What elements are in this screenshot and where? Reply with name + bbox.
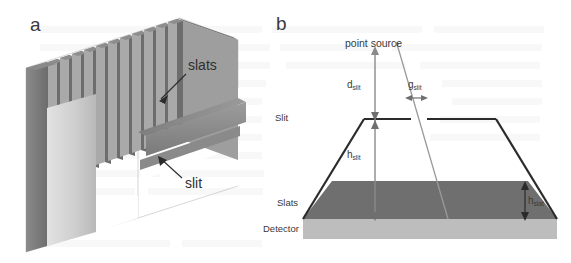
- label-slats: slats: [188, 58, 217, 72]
- left-plate-edge: [26, 62, 47, 252]
- slit-aperture-wedge: [96, 196, 138, 232]
- gslit-arrow-right: [421, 95, 428, 101]
- hslit-arrow-up: [371, 120, 379, 129]
- detector-band: [303, 219, 557, 239]
- label-point-source: point source: [345, 38, 402, 49]
- label-row-slats: Slats: [277, 198, 298, 208]
- h-slit-subscript: slit: [353, 154, 361, 161]
- dimension-d-slit: dslit: [347, 80, 361, 90]
- d-slit-symbol: d: [347, 79, 353, 90]
- panel-a-drawing: [0, 0, 285, 263]
- d-slit-subscript: slit: [353, 84, 361, 91]
- dimension-g-slit: gslit: [408, 80, 422, 90]
- h-slit-symbol: h: [347, 149, 353, 160]
- label-row-slit: Slit: [275, 113, 288, 123]
- label-row-detector: Detector: [263, 224, 299, 234]
- h-slat-subscript: slat: [534, 200, 544, 207]
- panel-b: b point source Slit Slats Detector dslit…: [285, 0, 571, 263]
- left-plate-face: [47, 94, 96, 246]
- panel-a-letter: a: [30, 15, 41, 34]
- slats-band: [303, 181, 557, 219]
- gslit-arrow-left: [405, 95, 412, 101]
- h-slat-symbol: h: [528, 195, 534, 206]
- panel-b-drawing: [285, 0, 571, 263]
- panel-a: a slats slit: [0, 0, 285, 263]
- label-slit: slit: [185, 176, 202, 190]
- dimension-h-slat: hslat: [528, 196, 544, 206]
- g-slit-subscript: slit: [414, 84, 422, 91]
- g-slit-symbol: g: [408, 79, 414, 90]
- dimension-h-slit: hslit: [347, 150, 361, 160]
- panel-b-letter: b: [276, 14, 287, 33]
- figure-root: a slats slit: [0, 0, 571, 263]
